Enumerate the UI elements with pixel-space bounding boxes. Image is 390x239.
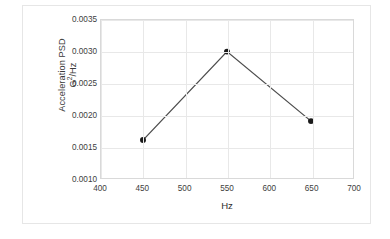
chart-figure-frame: Acceleration PSD G2/Hz 0.00100.00150.002… [22,5,371,224]
x-axis-tick-label: 550 [204,184,250,193]
x-axis-tick-label: 700 [331,184,377,193]
gridline-vertical [270,20,271,178]
x-axis-tick-label: 650 [289,184,335,193]
gridline-horizontal [101,20,353,21]
y-axis-tick-label: 0.0035 [51,15,97,24]
gridline-horizontal [101,148,353,149]
y-axis-tick-label: 0.0020 [51,111,97,120]
gridline-vertical [143,20,144,178]
y-axis-tick-label: 0.0025 [51,79,97,88]
gridline-horizontal [101,116,353,117]
gridline-vertical [228,20,229,178]
gridline-horizontal [101,84,353,85]
x-axis-title: Hz [100,200,354,211]
y-axis-tick-labels: 0.00100.00150.00200.00250.00300.0035 [49,19,97,179]
y-axis-tick-label: 0.0030 [51,47,97,56]
x-axis-tick-label: 600 [246,184,292,193]
gridline-vertical [313,20,314,178]
x-axis-tick-label: 500 [162,184,208,193]
y-axis-tick-label: 0.0015 [51,143,97,152]
y-axis-tick-label: 0.0010 [51,175,97,184]
gridline-vertical [186,20,187,178]
data-series-line [101,20,353,178]
x-axis-tick-labels: 400450500550600650700 [100,184,354,198]
x-axis-tick-label: 400 [77,184,123,193]
series-line [143,52,311,140]
gridline-vertical [101,20,102,178]
plot-area [100,19,354,179]
gridline-horizontal [101,52,353,53]
x-axis-tick-label: 450 [119,184,165,193]
